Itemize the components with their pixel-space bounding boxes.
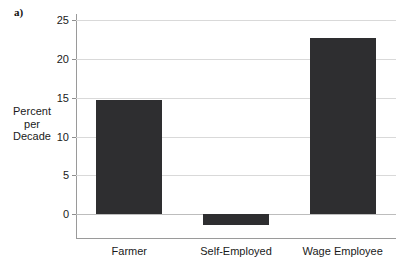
y-axis-title: Percent per Decade (2, 105, 62, 143)
y-tick-label: 15 (57, 92, 69, 103)
y-tick-mark (72, 175, 76, 176)
y-tick-mark (72, 214, 76, 215)
y-tick-mark (72, 98, 76, 99)
y-tick-label: 20 (57, 54, 69, 65)
bar-self-employed (203, 214, 269, 225)
y-tick-mark (72, 20, 76, 21)
y-axis-title-line-1: Percent (2, 105, 62, 118)
y-tick-label: 10 (57, 131, 69, 142)
x-axis-label-wage-employee: Wage Employee (303, 245, 383, 257)
bar-farmer (96, 100, 162, 214)
panel-letter: a) (14, 6, 23, 18)
gridline-25 (76, 20, 396, 21)
figure-panel-a: a) Percent per Decade 2520151050 FarmerS… (0, 0, 406, 264)
y-tick-mark (72, 59, 76, 60)
x-axis-label-self-employed: Self-Employed (200, 245, 272, 257)
y-tick-mark (72, 137, 76, 138)
y-tick-label: 25 (57, 15, 69, 26)
y-tick-label: 5 (63, 170, 69, 181)
y-tick-label: 0 (63, 209, 69, 220)
y-axis-title-line-3: Decade (2, 130, 62, 143)
x-axis-line (76, 238, 396, 239)
bar-wage-employee (310, 38, 376, 214)
plot-area: 2520151050 (76, 14, 396, 238)
y-axis-title-line-2: per (2, 118, 62, 131)
x-axis-label-farmer: Farmer (112, 245, 147, 257)
